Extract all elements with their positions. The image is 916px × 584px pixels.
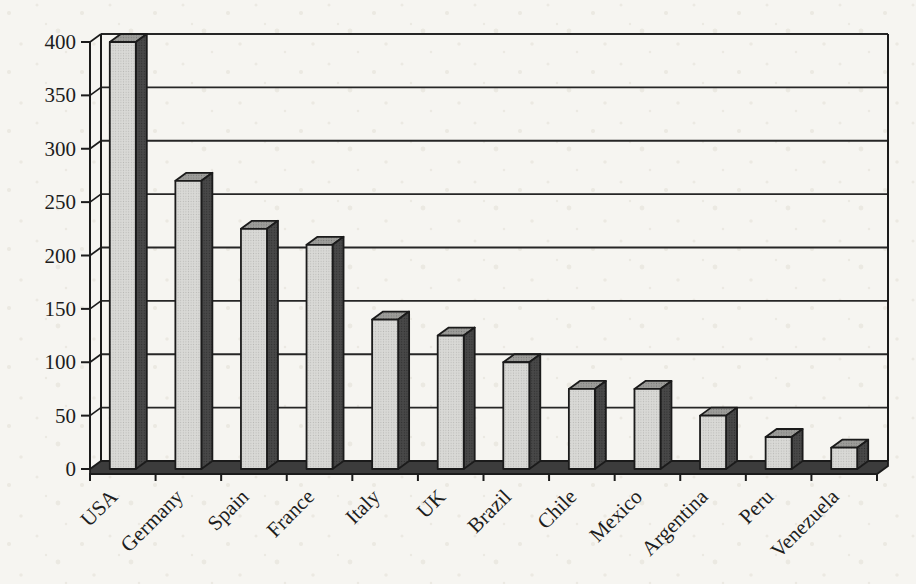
y-tick-label-350: 350: [45, 83, 77, 107]
bar-chart-figure: 050100150200250300350400USAGermanySpainF…: [0, 0, 916, 584]
y-tick-label-250: 250: [45, 190, 77, 214]
bar-front-face: [307, 245, 333, 469]
bar-usa: [110, 34, 147, 469]
bar-front-face: [766, 437, 792, 469]
bar-front-face: [503, 362, 529, 469]
bar-front-face: [569, 389, 595, 469]
y-tick-label-150: 150: [45, 297, 77, 321]
bar-side-face: [333, 237, 344, 469]
bar-front-face: [831, 448, 857, 469]
bar-side-face: [660, 381, 671, 469]
bar-front-face: [438, 336, 464, 469]
bar-front-face: [372, 320, 398, 469]
bar-side-face: [792, 429, 803, 469]
y-tick-label-0: 0: [66, 457, 77, 481]
bar-spain: [241, 221, 278, 469]
bar-side-face: [529, 354, 540, 469]
y-tick-label-400: 400: [45, 30, 77, 54]
bar-mexico: [634, 381, 671, 469]
bar-side-face: [136, 34, 147, 469]
bar-side-face: [201, 173, 212, 469]
bar-italy: [372, 312, 409, 469]
bar-side-face: [595, 381, 606, 469]
bar-peru: [766, 429, 803, 469]
bar-uk: [438, 328, 475, 469]
bar-chile: [569, 381, 606, 469]
bar-venezuela: [831, 440, 868, 469]
bar-front-face: [110, 42, 136, 469]
bar-france: [307, 237, 344, 469]
scanned-page: 050100150200250300350400USAGermanySpainF…: [0, 0, 916, 584]
y-tick-label-100: 100: [45, 350, 77, 374]
y-tick-label-300: 300: [45, 137, 77, 161]
bar-side-face: [398, 312, 409, 469]
bar-brazil: [503, 354, 540, 469]
bar-front-face: [175, 181, 201, 469]
y-tick-label-50: 50: [55, 404, 76, 428]
bar-front-face: [634, 389, 660, 469]
bar-front-face: [700, 416, 726, 469]
bar-side-face: [267, 221, 278, 469]
bar-chart-canvas: 050100150200250300350400USAGermanySpainF…: [0, 0, 916, 584]
y-tick-label-200: 200: [45, 244, 77, 268]
bar-side-face: [464, 328, 475, 469]
bar-front-face: [241, 229, 267, 469]
bar-argentina: [700, 408, 737, 469]
bar-side-face: [726, 408, 737, 469]
bar-germany: [175, 173, 212, 469]
